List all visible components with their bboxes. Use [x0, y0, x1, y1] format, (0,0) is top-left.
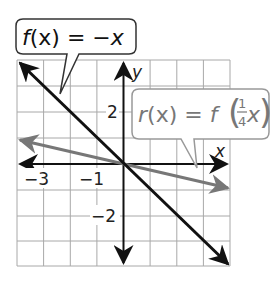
right-paren: ) — [259, 92, 272, 132]
y-tick-label-neg2: −2 — [91, 206, 116, 226]
callout-r: r(x) = f ( 1 4 x ) — [132, 89, 272, 168]
x-axis-label: x — [214, 141, 226, 161]
callout-f: f(x) = −x — [16, 19, 136, 94]
y-tick-label-2: 2 — [107, 102, 118, 122]
callout-r-text: r(x) = f — [138, 102, 221, 127]
x-tick-label-neg1: −1 — [79, 169, 104, 189]
x-tick-label-neg3: −3 — [24, 169, 49, 189]
y-axis-label: y — [131, 62, 143, 82]
fraction-numerator: 1 — [238, 96, 246, 111]
fraction-denominator: 4 — [238, 114, 246, 129]
coordinate-plane: −3 −1 2 −2 x y f(x) = −x r(x) = f ( 1 4 … — [0, 0, 277, 288]
callout-f-text: f(x) = −x — [22, 25, 125, 50]
